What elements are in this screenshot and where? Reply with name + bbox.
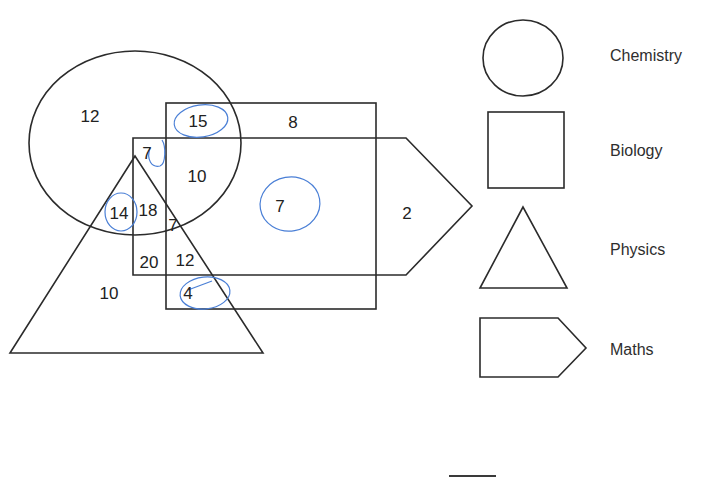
value-chemistry-physics-maths: 18 (139, 201, 158, 220)
pentagon-icon (480, 318, 586, 377)
value-biology-maths: 7 (275, 197, 284, 216)
legend-label-biology: Biology (610, 142, 662, 159)
value-all-four: 7 (168, 216, 177, 235)
value-chemistry-biology-maths: 10 (188, 167, 207, 186)
square-icon (488, 112, 564, 188)
value-physics-only: 10 (100, 284, 119, 303)
value-chemistry-biology: 15 (189, 112, 208, 131)
value-physics-maths: 20 (140, 253, 159, 272)
subject-venn-diagram: 12 15 8 7 10 7 2 14 18 7 20 12 10 4 Chem… (0, 0, 702, 477)
value-physics-maths-biology: 12 (176, 251, 195, 270)
legend-label-maths: Maths (610, 341, 654, 358)
diagram-shapes (10, 51, 472, 353)
circle-icon (483, 20, 563, 96)
value-chemistry-maths-physics: 7 (142, 144, 151, 163)
legend-label-chemistry: Chemistry (610, 47, 682, 64)
legend-item-biology: Biology (488, 112, 662, 188)
triangle-icon (480, 207, 567, 288)
legend-label-physics: Physics (610, 241, 665, 258)
region-values: 12 15 8 7 10 7 2 14 18 7 20 12 10 4 (81, 107, 412, 303)
value-biology-only: 8 (288, 113, 297, 132)
value-physics-biology: 4 (183, 284, 192, 303)
annotation-loop-7-center (256, 172, 324, 236)
legend: Chemistry Biology Physics Maths (480, 20, 682, 377)
legend-item-maths: Maths (480, 318, 654, 377)
legend-item-physics: Physics (480, 207, 665, 288)
value-maths-only: 2 (402, 204, 411, 223)
physics-triangle (10, 156, 263, 353)
value-chemistry-physics: 14 (110, 204, 129, 223)
value-chemistry-only: 12 (81, 107, 100, 126)
chemistry-circle (29, 51, 241, 235)
legend-item-chemistry: Chemistry (483, 20, 682, 96)
